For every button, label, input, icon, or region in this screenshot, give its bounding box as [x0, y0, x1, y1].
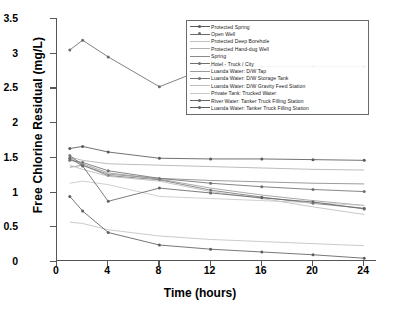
x-tick-mark: [210, 261, 211, 266]
series-line: [70, 155, 364, 208]
legend-label: Hotel - Truck / City: [211, 61, 254, 67]
legend-swatch-icon: [189, 97, 211, 104]
legend-item: Luanda Water: D/W Tap: [189, 67, 365, 74]
x-tick-mark: [312, 261, 313, 266]
data-point: [260, 157, 263, 160]
data-point: [260, 196, 263, 199]
y-tick-label: 0.5: [0, 220, 18, 232]
chart-legend: Protected SpringOpen WellProtected Deep …: [186, 20, 369, 115]
legend-item: Luanda Water: D/W Gravity Feed Station: [189, 82, 365, 89]
legend-swatch-icon: [189, 68, 211, 75]
data-point: [68, 48, 71, 51]
legend-label: Open Well: [211, 31, 235, 37]
data-point: [68, 195, 71, 198]
legend-item: Spring: [189, 53, 365, 60]
data-point: [312, 253, 315, 256]
data-point: [107, 151, 110, 154]
data-point: [81, 210, 84, 213]
series-4: [70, 165, 364, 184]
y-tick-label: 3.5: [0, 12, 18, 24]
y-tick-label: 0: [0, 255, 18, 267]
legend-label: Protected Hand-dug Well: [211, 46, 269, 52]
legend-label: Luanda Water: D/W Gravity Feed Station: [211, 83, 305, 89]
legend-swatch-icon: [189, 90, 211, 97]
data-point: [158, 157, 161, 160]
data-point: [158, 244, 161, 247]
data-point: [107, 231, 110, 234]
y-tick-label: 2: [0, 116, 18, 128]
data-point: [158, 187, 161, 190]
data-point: [158, 85, 161, 88]
data-point: [107, 55, 110, 58]
y-tick-label: 2.5: [0, 81, 18, 93]
x-tick-mark: [158, 261, 159, 266]
legend-swatch-icon: [189, 23, 211, 30]
legend-item: Luanda Water: Tanker Truck Filling Stati…: [189, 104, 365, 111]
legend-item: Protected Deep Borehole: [189, 38, 365, 45]
legend-item: Protected Spring: [189, 23, 365, 30]
legend-swatch-icon: [189, 104, 211, 111]
legend-item: River Water: Tanker Truck Filling Statio…: [189, 97, 365, 104]
legend-swatch-icon: [189, 60, 211, 67]
data-point: [312, 158, 315, 161]
data-point: [68, 157, 71, 160]
legend-swatch-icon: [189, 31, 211, 38]
series-line: [70, 196, 364, 258]
y-tick-label: 3: [0, 47, 18, 59]
data-point: [209, 248, 212, 251]
chart-figure: Free Chlorine Residual (mg/L) Time (hour…: [0, 0, 400, 310]
y-axis-title: Free Chlorine Residual (mg/L): [31, 25, 45, 225]
series-line: [70, 165, 364, 184]
y-tick-label: 1.5: [0, 151, 18, 163]
x-tick-mark: [107, 261, 108, 266]
data-point: [209, 182, 212, 185]
legend-swatch-icon: [189, 53, 211, 60]
legend-item: Protected Hand-dug Well: [189, 45, 365, 52]
y-tick-label: 1: [0, 186, 18, 198]
data-point: [68, 154, 71, 157]
series-line: [70, 146, 364, 160]
data-point: [209, 191, 212, 194]
data-point: [81, 145, 84, 148]
legend-item: Luanda Water: D/W Storage Tank: [189, 75, 365, 82]
legend-swatch-icon: [189, 82, 211, 89]
legend-label: Spring: [211, 53, 226, 59]
data-point: [209, 157, 212, 160]
series-0: [68, 145, 365, 162]
data-point: [363, 207, 366, 210]
legend-swatch-icon: [189, 75, 211, 82]
legend-label: Private Tank: Trucked Water: [211, 90, 276, 96]
legend-label: Luanda Water: D/W Storage Tank: [211, 75, 288, 81]
legend-item: Open Well: [189, 30, 365, 37]
x-axis-title: Time (hours): [0, 286, 400, 300]
data-point: [68, 147, 71, 150]
data-point: [107, 200, 110, 203]
data-point: [363, 159, 366, 162]
data-point: [81, 164, 84, 167]
x-tick-mark: [261, 261, 262, 266]
legend-label: Luanda Water: D/W Tap: [211, 68, 266, 74]
legend-item: Hotel - Truck / City: [189, 60, 365, 67]
data-point: [363, 190, 366, 193]
legend-swatch-icon: [189, 38, 211, 45]
data-point: [81, 39, 84, 42]
legend-label: River Water: Tanker Truck Filling Statio…: [211, 98, 304, 104]
data-point: [312, 200, 315, 203]
data-point: [363, 257, 366, 260]
data-point: [107, 169, 110, 172]
legend-label: Protected Deep Borehole: [211, 38, 269, 44]
data-point: [260, 185, 263, 188]
series-11: [68, 195, 365, 260]
legend-item: Private Tank: Trucked Water: [189, 90, 365, 97]
legend-label: Luanda Water: Tanker Truck Filling Stati…: [211, 105, 309, 111]
data-point: [260, 250, 263, 253]
data-point: [312, 188, 315, 191]
x-tick-mark: [56, 261, 57, 266]
legend-label: Protected Spring: [211, 24, 250, 30]
x-tick-mark: [363, 261, 364, 266]
legend-swatch-icon: [189, 45, 211, 52]
